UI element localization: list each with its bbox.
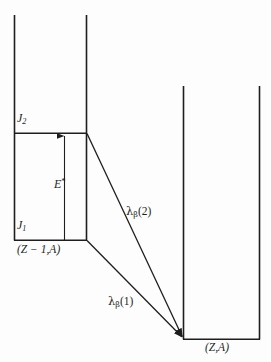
daughter-potential-well [183, 86, 260, 340]
beta-rate-2-argument: (2) [138, 205, 151, 217]
beta-transition-arrow-1 [87, 241, 182, 337]
level-label-j2: J2 [17, 112, 26, 126]
beta-rate-label-2: λβ(2) [126, 206, 151, 219]
level-label-j1: J1 [17, 219, 26, 233]
beta-rate-1-argument: (1) [120, 295, 133, 307]
level-label-j2-subscript: 2 [22, 117, 26, 126]
parent-potential-well [14, 15, 87, 241]
level-diagram-svg [0, 0, 271, 362]
level-label-j1-subscript: 1 [22, 224, 26, 233]
figure-canvas: J2 J1 E* (Z − 1,A) λβ(2) λβ(1) (Z,A) [0, 0, 271, 362]
parent-nucleus-label: (Z − 1,A) [17, 244, 60, 256]
excitation-energy-label: E* [54, 177, 66, 190]
beta-rate-label-1: λβ(1) [108, 296, 133, 309]
excitation-energy-superscript: * [61, 176, 65, 186]
daughter-nucleus-label: (Z,A) [205, 342, 229, 354]
beta-transition-arrow-2 [87, 134, 182, 337]
